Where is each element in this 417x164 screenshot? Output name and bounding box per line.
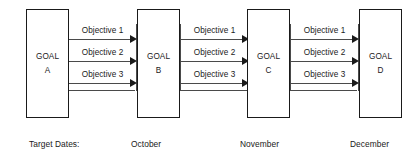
arrow-line <box>180 61 247 62</box>
goal-a-word: GOAL <box>36 50 59 64</box>
arrow-label: Objective 1 <box>290 24 359 37</box>
arrow-row-objective-3: Objective 3 <box>290 68 359 90</box>
goal-box-d: GOAL D <box>359 9 402 118</box>
goal-box-a: GOAL A <box>26 9 69 118</box>
arrow-row-objective-3: Objective 3 <box>68 68 137 90</box>
arrow-head-icon <box>130 57 137 65</box>
arrow-label: Objective 2 <box>68 46 137 59</box>
arrow-row-objective-2: Objective 2 <box>180 46 249 68</box>
arrow-label: Objective 1 <box>180 24 249 37</box>
arrow-label: Objective 2 <box>290 46 359 59</box>
arrow-label: Objective 1 <box>68 24 137 37</box>
goal-objective-diagram: GOAL A Objective 1 Objective 2 Objective… <box>0 0 417 164</box>
target-date-december: December <box>350 139 389 149</box>
arrow-label: Objective 3 <box>68 68 137 81</box>
arrow-line <box>68 61 135 62</box>
target-date-october: October <box>131 139 161 149</box>
goal-d-letter: D <box>377 64 383 78</box>
arrow-row-objective-2: Objective 2 <box>68 46 137 68</box>
arrow-line <box>290 61 357 62</box>
connector-c-to-d: Objective 1 Objective 2 Objective 3 <box>290 24 359 91</box>
arrow-head-icon <box>130 79 137 87</box>
arrow-line <box>180 83 247 84</box>
arrow-head-icon <box>352 79 359 87</box>
goal-b-word: GOAL <box>147 50 170 64</box>
arrow-line <box>68 39 135 40</box>
goal-d-word: GOAL <box>369 50 392 64</box>
arrow-line <box>290 39 357 40</box>
arrow-row-objective-1: Objective 1 <box>180 24 249 46</box>
goal-a-letter: A <box>45 64 51 78</box>
goal-c-letter: C <box>265 64 271 78</box>
connector-baseline <box>180 90 247 91</box>
arrow-row-objective-3: Objective 3 <box>180 68 249 90</box>
arrow-row-objective-2: Objective 2 <box>290 46 359 68</box>
target-dates-label: Target Dates: <box>29 139 79 149</box>
connector-a-to-b: Objective 1 Objective 2 Objective 3 <box>68 24 137 91</box>
target-date-november: November <box>240 139 279 149</box>
connector-baseline <box>68 90 135 91</box>
arrow-line <box>180 39 247 40</box>
arrow-row-objective-1: Objective 1 <box>68 24 137 46</box>
arrow-head-icon <box>352 35 359 43</box>
arrow-label: Objective 3 <box>180 68 249 81</box>
connector-baseline <box>290 90 357 91</box>
goal-b-letter: B <box>156 64 162 78</box>
arrow-head-icon <box>130 35 137 43</box>
arrow-label: Objective 2 <box>180 46 249 59</box>
goal-c-word: GOAL <box>257 50 280 64</box>
goal-box-b: GOAL B <box>137 9 180 118</box>
arrow-line <box>290 83 357 84</box>
arrow-label: Objective 3 <box>290 68 359 81</box>
connector-b-to-c: Objective 1 Objective 2 Objective 3 <box>180 24 249 91</box>
arrow-row-objective-1: Objective 1 <box>290 24 359 46</box>
goal-box-c: GOAL C <box>247 9 290 118</box>
arrow-line <box>68 83 135 84</box>
arrow-head-icon <box>352 57 359 65</box>
